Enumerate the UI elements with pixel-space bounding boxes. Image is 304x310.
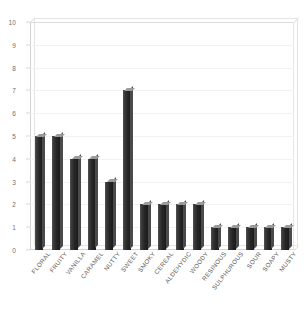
bar-slot (246, 22, 254, 250)
bar-slot (264, 22, 272, 250)
y-axis-tick-label: 8 (12, 64, 16, 71)
bar-front-face (158, 204, 166, 250)
y-axis: 012345678910 (0, 0, 34, 310)
x-axis-tick-label: SOUR (245, 250, 262, 270)
bar-slot (211, 22, 219, 250)
bar-top-face (265, 225, 276, 228)
bar-top-face (283, 225, 294, 228)
y-axis-tick-label: 1 (12, 224, 16, 231)
y-axis-tick-label: 2 (12, 201, 16, 208)
bar-front-face (70, 159, 78, 250)
bar-front-face (105, 182, 113, 250)
bar-top-face (36, 134, 47, 137)
bar[interactable] (228, 227, 236, 250)
bar-slot (123, 22, 131, 250)
bar-chart: 012345678910 FLORALFRUITYVANILLACARAMELN… (0, 0, 304, 310)
bar-slot (176, 22, 184, 250)
bar-slot (105, 22, 113, 250)
y-axis-tick-label: 10 (9, 19, 16, 26)
bar-slot (158, 22, 166, 250)
x-axis-tick-label: MUSTY (278, 250, 298, 273)
y-axis-tick-label: 3 (12, 178, 16, 185)
bar-side-face (95, 154, 98, 248)
bar-slot (52, 22, 60, 250)
bar-side-face (166, 200, 169, 249)
bar-slot (228, 22, 236, 250)
bar[interactable] (52, 136, 60, 250)
bar-side-face (148, 200, 151, 249)
bar-top-face (124, 88, 135, 91)
bar[interactable] (70, 159, 78, 250)
bar[interactable] (123, 90, 131, 250)
bar-side-face (78, 154, 81, 248)
bar-slot (193, 22, 201, 250)
y-axis-tick-label: 6 (12, 110, 16, 117)
x-axis-labels: FLORALFRUITYVANILLACARAMELNUTTYSWEETSMOK… (30, 250, 304, 310)
y-axis-tick-label: 9 (12, 41, 16, 48)
y-axis-tick-label: 7 (12, 87, 16, 94)
bar[interactable] (176, 204, 184, 250)
bar-side-face (130, 86, 133, 249)
bar-top-face (107, 179, 118, 182)
bar-side-face (60, 132, 63, 249)
bar[interactable] (140, 204, 148, 250)
bar[interactable] (264, 227, 272, 250)
bar-top-face (54, 134, 65, 137)
bar-side-face (113, 177, 116, 248)
bar-top-face (212, 225, 223, 228)
bar-side-face (201, 200, 204, 249)
bar-front-face (193, 204, 201, 250)
bar-slot (70, 22, 78, 250)
bar-slot (88, 22, 96, 250)
bar-slot (281, 22, 289, 250)
bar-side-face (183, 200, 186, 249)
y-axis-tick-label: 4 (12, 155, 16, 162)
bar[interactable] (246, 227, 254, 250)
bar-top-face (177, 202, 188, 205)
y-axis-tick-label: 0 (12, 247, 16, 254)
bar[interactable] (193, 204, 201, 250)
y-axis-tick-label: 5 (12, 133, 16, 140)
bar-slot (35, 22, 43, 250)
x-axis-tick-label: SOAPY (260, 250, 280, 272)
bar[interactable] (158, 204, 166, 250)
bar-slot (140, 22, 148, 250)
bar[interactable] (88, 159, 96, 250)
bar[interactable] (281, 227, 289, 250)
bar[interactable] (105, 182, 113, 250)
bar-front-face (246, 227, 254, 250)
bar[interactable] (211, 227, 219, 250)
bar-top-face (89, 156, 100, 159)
x-axis-tick-label: FLORAL (30, 250, 52, 275)
bar-front-face (281, 227, 289, 250)
bar[interactable] (35, 136, 43, 250)
bar-top-face (195, 202, 206, 205)
bar-side-face (42, 132, 45, 249)
plot-area (30, 22, 294, 250)
bar-top-face (142, 202, 153, 205)
bar-top-face (230, 225, 241, 228)
